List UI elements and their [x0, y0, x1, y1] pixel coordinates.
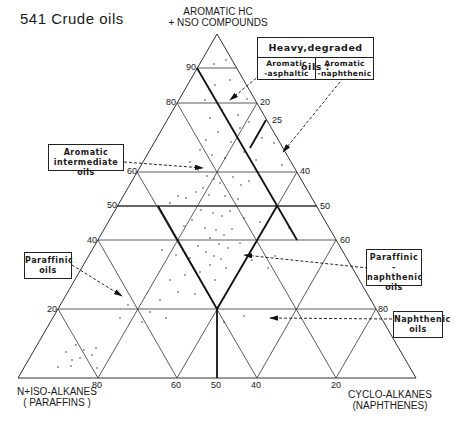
bottom-tick: 20	[331, 380, 341, 390]
vertex-label-naphthenes: CYCLO-ALKANES (NAPHTHENES)	[340, 389, 440, 411]
right-tick: 60	[340, 235, 350, 245]
left-tick: 80	[166, 97, 176, 107]
right-tick: 50	[320, 201, 330, 211]
label-aromatic-asphaltic: Aromatic -asphaltic	[258, 58, 315, 80]
label-paraffinic-naphthenic: Paraffinic -naphthenic oils	[366, 249, 422, 286]
ternary-diagram	[0, 0, 461, 422]
left-tick: 90	[186, 62, 196, 72]
left-tick: 60	[127, 166, 137, 176]
right-tick: 25	[272, 115, 282, 125]
label-paraffinic: Paraffinic oils	[24, 252, 72, 279]
label-aromatic-naphthenic: Aromatic -naphthenic	[315, 58, 373, 80]
bottom-tick: 50	[211, 380, 221, 390]
right-tick: 40	[300, 166, 310, 176]
bottom-tick: 60	[171, 380, 181, 390]
bottom-tick: 80	[92, 380, 102, 390]
vertex-label-aromatic: AROMATIC HC + NSO COMPOUNDS	[168, 6, 268, 28]
vertex-label-paraffins: N+ISO-ALKANES ( PARAFFINS )	[12, 386, 102, 408]
left-tick: 40	[87, 235, 97, 245]
left-tick: 50	[107, 200, 117, 210]
right-tick: 80	[378, 304, 388, 314]
legend-heavy-degraded-oils: Heavy,degraded oils : Aromatic -asphalti…	[257, 37, 374, 80]
heavy-header: Heavy,degraded oils :	[258, 38, 373, 58]
label-aromatic-intermediate: Aromatic intermediate oils	[48, 144, 124, 171]
left-tick: 20	[47, 304, 57, 314]
label-naphthenic: Naphthenic oils	[393, 311, 443, 338]
right-tick: 20	[260, 97, 270, 107]
bottom-tick: 40	[251, 380, 261, 390]
